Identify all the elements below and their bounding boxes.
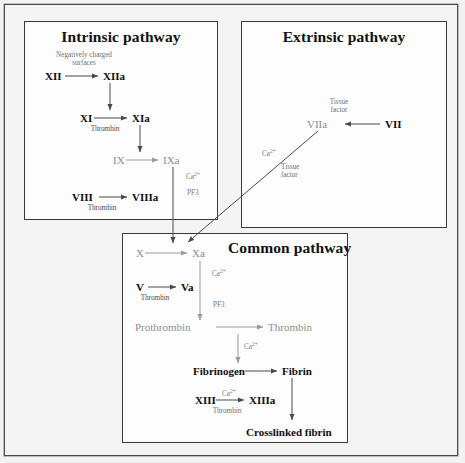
caption-thrombin-v: Thrombin (133, 294, 177, 302)
caption-calcium-ixa: Ca2+ (186, 171, 200, 181)
calcium-superscript: 2+ (270, 148, 276, 154)
caption-tissue-factor-upper: Tissue factor (320, 98, 358, 115)
intrinsic-pathway-title: Intrinsic pathway (25, 28, 217, 46)
node-crosslinked-fibrin: Crosslinked fibrin (246, 427, 332, 438)
caption-calcium-xa: Ca2+ (212, 268, 226, 278)
common-pathway-title: Common pathway (228, 239, 351, 257)
caption-thrombin-xiii: Thrombin (205, 407, 249, 415)
figure-canvas: Intrinsic pathway Extrinsic pathway (0, 0, 465, 463)
calcium-text: Ca (262, 150, 270, 158)
node-xii: XII (45, 71, 62, 82)
node-xa: Xa (192, 248, 205, 259)
node-ix: IX (113, 155, 125, 166)
caption-line-1: Negatively charged (56, 51, 112, 59)
calcium-text: Ca (212, 270, 220, 278)
node-xiiia: XIIIa (249, 395, 275, 406)
node-v: V (136, 282, 144, 293)
node-x: X (136, 248, 144, 259)
caption-tissue-factor-lower: Tissue factor (281, 163, 319, 180)
calcium-superscript: 2+ (194, 171, 200, 177)
calcium-superscript: 2+ (252, 341, 258, 347)
caption-thrombin-viii: Thrombin (80, 204, 124, 212)
node-fibrinogen: Fibrinogen (193, 366, 245, 377)
node-vii: VII (385, 119, 402, 130)
node-xia: XIa (132, 113, 150, 124)
tissue-factor-lower-line-1: Tissue (281, 163, 300, 171)
caption-calcium-xiii: Ca2+ (222, 388, 236, 398)
extrinsic-pathway-panel: Extrinsic pathway (241, 21, 447, 228)
caption-line-2: surfaces (72, 59, 96, 67)
node-ixa: IXa (163, 155, 180, 166)
caption-negatively-charged-surfaces: Negatively charged surfaces (46, 51, 122, 68)
node-xiia: XIIa (103, 71, 125, 82)
node-xi: XI (80, 113, 92, 124)
node-xiii: XIII (195, 395, 216, 406)
node-viii: VIII (72, 192, 93, 203)
caption-calcium-extrinsic: Ca2+ (262, 148, 276, 158)
calcium-text: Ca (186, 173, 194, 181)
caption-thrombin-xi: Thrombin (83, 125, 127, 133)
calcium-superscript: 2+ (230, 388, 236, 394)
node-viia: VIIa (307, 119, 327, 130)
node-va: Va (181, 282, 193, 293)
tissue-factor-line-2: factor (331, 106, 348, 114)
calcium-text: Ca (244, 343, 252, 351)
caption-calcium-thrombin: Ca2+ (244, 341, 258, 351)
calcium-text: Ca (222, 390, 230, 398)
caption-pf3-ixa: PF3 (187, 189, 199, 197)
node-viiia: VIIIa (132, 192, 158, 203)
calcium-superscript: 2+ (220, 268, 226, 274)
node-prothrombin: Prothrombin (135, 322, 191, 333)
tissue-factor-line-1: Tissue (330, 98, 349, 106)
node-fibrin: Fibrin (282, 366, 312, 377)
tissue-factor-lower-line-2: factor (281, 171, 298, 179)
caption-pf3-xa: PF3 (213, 301, 225, 309)
extrinsic-pathway-title: Extrinsic pathway (242, 28, 446, 46)
node-thrombin: Thrombin (268, 322, 312, 333)
